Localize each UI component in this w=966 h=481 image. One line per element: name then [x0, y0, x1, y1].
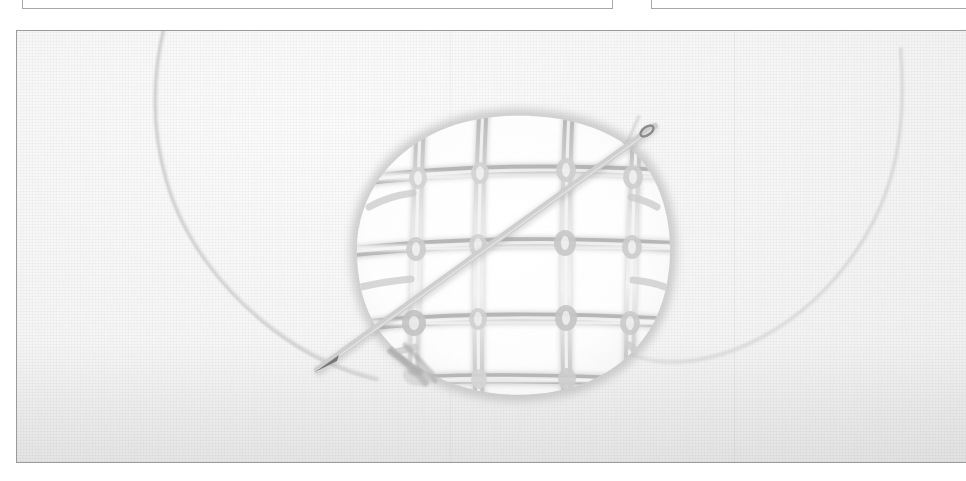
- cropped-panel-right: [651, 0, 966, 9]
- scanned-page: [0, 0, 966, 481]
- warp-2: [478, 107, 483, 415]
- warp-3: [566, 113, 569, 409]
- darning-illustration: [17, 31, 966, 463]
- cropped-panel-left: [22, 0, 613, 9]
- loose-thread-loop: [156, 31, 379, 379]
- darning-photo: [16, 30, 966, 463]
